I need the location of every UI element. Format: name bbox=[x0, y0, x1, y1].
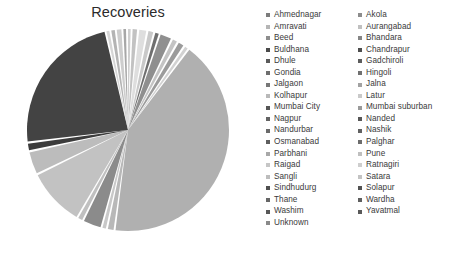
legend-swatch-icon bbox=[266, 221, 270, 225]
legend-item[interactable]: Parbhani bbox=[266, 148, 358, 160]
legend-item-label: Gadchiroli bbox=[366, 55, 403, 67]
legend-swatch-icon bbox=[266, 106, 270, 110]
legend-item-label: Aurangabad bbox=[366, 21, 411, 33]
legend-item[interactable]: Akola bbox=[358, 9, 450, 21]
legend-swatch-icon bbox=[358, 13, 362, 17]
legend-swatch-icon bbox=[266, 13, 270, 17]
legend-swatch-icon bbox=[358, 210, 362, 214]
legend-swatch-icon bbox=[358, 175, 362, 179]
legend-item-label: Parbhani bbox=[274, 148, 307, 160]
legend-item-label: Akola bbox=[366, 9, 387, 21]
legend-item[interactable]: Washim bbox=[266, 205, 358, 217]
legend-swatch-icon bbox=[358, 140, 362, 144]
legend-swatch-icon bbox=[358, 71, 362, 75]
legend-item[interactable]: Nanded bbox=[358, 113, 450, 125]
legend-item[interactable]: Latur bbox=[358, 90, 450, 102]
legend-swatch-icon bbox=[358, 36, 362, 40]
legend-item[interactable]: Jalna bbox=[358, 78, 450, 90]
legend-item[interactable]: Wardha bbox=[358, 194, 450, 206]
legend-swatch-icon bbox=[266, 25, 270, 29]
legend-item[interactable]: Mumbai City bbox=[266, 101, 358, 113]
legend-item[interactable]: Nashik bbox=[358, 124, 450, 136]
legend-swatch-icon bbox=[358, 83, 362, 87]
legend-swatch-icon bbox=[358, 163, 362, 167]
legend-swatch-icon bbox=[358, 152, 362, 156]
legend-item[interactable]: Nandurbar bbox=[266, 124, 358, 136]
legend-item-label: Pune bbox=[366, 148, 385, 160]
legend-item[interactable]: Buldhana bbox=[266, 44, 358, 56]
legend-item[interactable]: Aurangabad bbox=[358, 21, 450, 33]
legend-item-label: Latur bbox=[366, 90, 385, 102]
legend-item[interactable]: Pune bbox=[358, 148, 450, 160]
legend-item-label: Amravati bbox=[274, 21, 307, 33]
legend-item-label: Palghar bbox=[366, 136, 395, 148]
legend-item[interactable]: Osmanabad bbox=[266, 136, 358, 148]
legend-item[interactable]: Unknown bbox=[266, 217, 358, 229]
legend-swatch-icon bbox=[358, 129, 362, 133]
legend-column-one: AhmednagarAmravatiBeedBuldhanaDhuleGondi… bbox=[266, 9, 358, 228]
legend-item[interactable]: Sangli bbox=[266, 171, 358, 183]
legend-item[interactable]: Chandrapur bbox=[358, 44, 450, 56]
legend-swatch-icon bbox=[266, 48, 270, 52]
legend-item-label: Dhule bbox=[274, 55, 296, 67]
legend-swatch-icon bbox=[358, 25, 362, 29]
legend-swatch-icon bbox=[266, 163, 270, 167]
chart-legend: AhmednagarAmravatiBeedBuldhanaDhuleGondi… bbox=[266, 9, 454, 257]
legend-item-label: Mumbai suburban bbox=[366, 101, 432, 113]
legend-item-label: Nanded bbox=[366, 113, 395, 125]
legend-item-label: Bhandara bbox=[366, 32, 402, 44]
legend-item[interactable]: Nagpur bbox=[266, 113, 358, 125]
legend-item[interactable]: Mumbai suburban bbox=[358, 101, 450, 113]
legend-swatch-icon bbox=[266, 117, 270, 121]
legend-swatch-icon bbox=[266, 71, 270, 75]
legend-item[interactable]: Amravati bbox=[266, 21, 358, 33]
legend-item[interactable]: Beed bbox=[266, 32, 358, 44]
pie-chart-plot-area bbox=[26, 28, 230, 232]
legend-item[interactable]: Gadchiroli bbox=[358, 55, 450, 67]
legend-swatch-icon bbox=[358, 94, 362, 98]
legend-item[interactable]: Jalgaon bbox=[266, 78, 358, 90]
legend-swatch-icon bbox=[358, 198, 362, 202]
legend-item-label: Beed bbox=[274, 32, 293, 44]
legend-swatch-icon bbox=[266, 59, 270, 63]
legend-item[interactable]: Palghar bbox=[358, 136, 450, 148]
legend-item[interactable]: Solapur bbox=[358, 182, 450, 194]
legend-item[interactable]: Gondia bbox=[266, 67, 358, 79]
legend-item-label: Raigad bbox=[274, 159, 300, 171]
legend-item-label: Nagpur bbox=[274, 113, 301, 125]
legend-swatch-icon bbox=[266, 198, 270, 202]
legend-item[interactable]: Ratnagiri bbox=[358, 159, 450, 171]
legend-swatch-icon bbox=[266, 83, 270, 87]
legend-item[interactable]: Bhandara bbox=[358, 32, 450, 44]
legend-swatch-icon bbox=[358, 117, 362, 121]
legend-swatch-icon bbox=[266, 94, 270, 98]
pie-chart-figure: Recoveries AhmednagarAmravatiBeedBuldhan… bbox=[0, 0, 456, 263]
legend-item-label: Ratnagiri bbox=[366, 159, 399, 171]
legend-item-label: Jalna bbox=[366, 78, 386, 90]
pie-chart-svg bbox=[26, 28, 230, 232]
legend-swatch-icon bbox=[266, 175, 270, 179]
legend-swatch-icon bbox=[358, 106, 362, 110]
legend-item-label: Satara bbox=[366, 171, 390, 183]
legend-item-label: Sangli bbox=[274, 171, 297, 183]
legend-swatch-icon bbox=[358, 48, 362, 52]
legend-item[interactable]: Thane bbox=[266, 194, 358, 206]
legend-item-label: Gondia bbox=[274, 67, 301, 79]
legend-item[interactable]: Kolhapur bbox=[266, 90, 358, 102]
legend-item-label: Washim bbox=[274, 205, 304, 217]
legend-item-label: Solapur bbox=[366, 182, 395, 194]
legend-swatch-icon bbox=[266, 186, 270, 190]
legend-item[interactable]: Raigad bbox=[266, 159, 358, 171]
legend-item[interactable]: Hingoli bbox=[358, 67, 450, 79]
legend-item[interactable]: Dhule bbox=[266, 55, 358, 67]
legend-item-label: Thane bbox=[274, 194, 297, 206]
legend-swatch-icon bbox=[266, 129, 270, 133]
legend-item[interactable]: Ahmednagar bbox=[266, 9, 358, 21]
legend-item-label: Wardha bbox=[366, 194, 395, 206]
legend-item[interactable]: Sindhudurg bbox=[266, 182, 358, 194]
legend-item-label: Kolhapur bbox=[274, 90, 307, 102]
legend-item[interactable]: Yavatmal bbox=[358, 205, 450, 217]
legend-swatch-icon bbox=[266, 152, 270, 156]
legend-item[interactable]: Satara bbox=[358, 171, 450, 183]
legend-item-label: Osmanabad bbox=[274, 136, 319, 148]
